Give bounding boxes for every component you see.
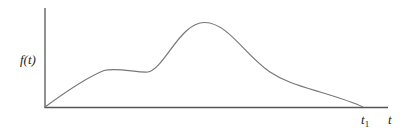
curve-f-of-t [45, 22, 363, 107]
t1-label: t1 [361, 112, 369, 129]
x-axis-label: t [388, 112, 392, 127]
y-axis-label: f(t) [20, 52, 36, 67]
function-plot: f(t) t1 t [0, 0, 413, 136]
